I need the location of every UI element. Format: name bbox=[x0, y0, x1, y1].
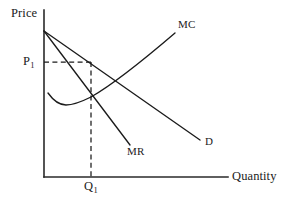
marginal-revenue-label: MR bbox=[127, 146, 144, 157]
demand-label: D bbox=[205, 136, 213, 147]
demand-curve bbox=[44, 31, 200, 140]
quantity-level-label: Q1 bbox=[84, 180, 98, 193]
economics-diagram: Price Quantity P1 Q1 MC MR D bbox=[0, 0, 288, 201]
price-level-subscript: 1 bbox=[30, 60, 34, 70]
marginal-cost-curve bbox=[48, 33, 175, 105]
quantity-level-base: Q bbox=[84, 179, 93, 193]
x-axis-label: Quantity bbox=[232, 170, 277, 183]
price-level-base: P bbox=[23, 54, 30, 68]
marginal-cost-label: MC bbox=[178, 19, 195, 30]
price-level-label: P1 bbox=[23, 55, 34, 68]
marginal-revenue-curve bbox=[44, 31, 130, 145]
y-axis-label: Price bbox=[11, 7, 37, 20]
quantity-level-subscript: 1 bbox=[93, 185, 97, 195]
